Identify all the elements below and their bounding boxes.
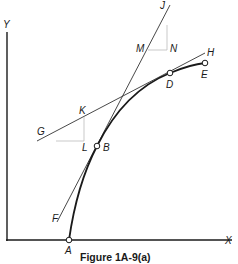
tangent-line-gh <box>37 53 205 141</box>
label-a: A <box>64 245 72 256</box>
label-g: G <box>37 126 45 137</box>
label-m: M <box>136 43 145 54</box>
label-b: B <box>103 142 110 153</box>
point-a <box>66 237 72 243</box>
tangent-line-fj <box>57 5 170 222</box>
label-f: F <box>52 213 59 224</box>
label-k: K <box>79 105 87 116</box>
label-y-axis: Y <box>3 19 11 30</box>
label-x-axis: X <box>224 235 232 246</box>
figure-caption: Figure 1A-9(a) <box>80 251 151 263</box>
label-d: D <box>166 79 173 90</box>
point-e <box>202 60 208 66</box>
label-n: N <box>170 43 178 54</box>
label-e: E <box>201 69 208 80</box>
diagram-canvas: Y X A B D E F G H J K L M N Figure 1A-9(… <box>0 0 238 264</box>
point-b <box>94 143 100 149</box>
curve-abde <box>69 63 205 240</box>
label-j: J <box>159 0 166 11</box>
point-d <box>167 70 173 76</box>
label-l: L <box>82 142 88 153</box>
label-h: H <box>207 47 215 58</box>
